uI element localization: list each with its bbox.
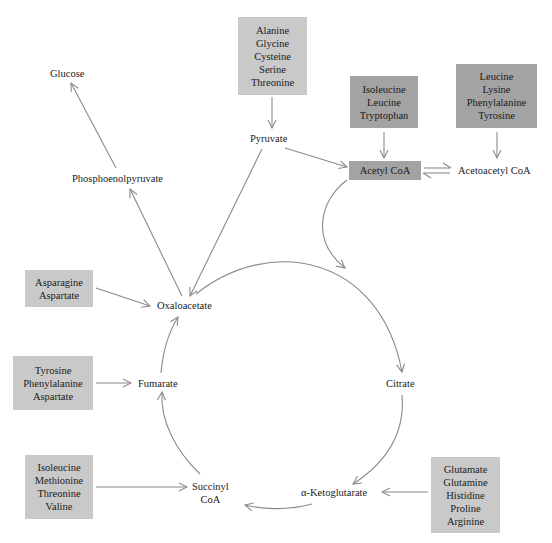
arrow-citrate-to-akg	[353, 395, 402, 484]
amino-acid-box-succinylcoa: Isoleucine Methionine Threonine Valine	[25, 455, 93, 519]
amino-acid: Cysteine	[254, 50, 291, 63]
metabolite-label: Succinyl	[192, 480, 229, 493]
metabolite-alpha-ketoglutarate: α-Ketoglutarate	[301, 486, 367, 499]
metabolite-label: CoA	[192, 493, 229, 506]
amino-acid: Aspartate	[39, 289, 79, 302]
arrow-pyruvate-to-oxaloacetate	[190, 149, 262, 296]
amino-acid-box-acetylcoa: Isoleucine Leucine Tryptophan	[350, 76, 418, 128]
amino-acid: Serine	[259, 63, 286, 76]
amino-acid: Histidine	[446, 489, 485, 502]
metabolite-acetoacetyl-coa: Acetoacetyl CoA	[458, 164, 531, 177]
amino-acid: Tyrosine	[35, 364, 72, 377]
arrow-pep-to-glucose	[71, 83, 116, 168]
amino-acid: Phenylalanine	[23, 377, 82, 390]
amino-acid: Glutamine	[443, 476, 487, 489]
metabolite-label: Acetyl CoA	[360, 164, 410, 177]
amino-acid: Arginine	[447, 515, 484, 528]
amino-acid: Isoleucine	[362, 83, 405, 96]
arrow-acetylcoa-into-cycle	[323, 180, 347, 268]
amino-acid-box-fumarate: Tyrosine Phenylalanine Aspartate	[13, 356, 93, 410]
amino-acid: Threonine	[37, 487, 80, 500]
arrow-oaa-to-citrate	[196, 262, 402, 372]
amino-acid-box-acetoacetylcoa: Leucine Lysine Phenylalanine Tyrosine	[456, 64, 537, 128]
amino-acid: Proline	[450, 502, 480, 515]
amino-acid: Lysine	[483, 83, 511, 96]
amino-acid-box-oxaloacetate: Asparagine Aspartate	[25, 270, 93, 307]
amino-acid: Asparagine	[35, 276, 83, 289]
amino-acid: Threonine	[251, 76, 294, 89]
amino-acid: Alanine	[256, 24, 289, 37]
amino-acid: Phenylalanine	[467, 96, 526, 109]
acetyl-coa-box: Acetyl CoA	[349, 161, 421, 180]
arrow-succinylcoa-to-fumarate	[162, 392, 200, 474]
metabolite-fumarate: Fumarate	[138, 377, 178, 390]
amino-acid: Glycine	[256, 37, 289, 50]
metabolite-succinyl-coa: Succinyl CoA	[192, 480, 229, 506]
arrow-fumarate-to-oaa	[161, 317, 178, 373]
arrow-pyruvate-to-acetylcoa	[285, 148, 347, 167]
amino-acid: Tyrosine	[478, 109, 515, 122]
metabolite-pyruvate: Pyruvate	[250, 132, 287, 145]
arrow-aa-to-oaa	[96, 288, 150, 306]
amino-acid: Valine	[46, 500, 73, 513]
metabolite-citrate: Citrate	[386, 377, 415, 390]
amino-acid: Tryptophan	[360, 109, 409, 122]
metabolite-phosphoenolpyruvate: Phosphoenolpyruvate	[72, 172, 163, 185]
metabolite-oxaloacetate: Oxaloacetate	[157, 299, 212, 312]
amino-acid-box-pyruvate: Alanine Glycine Cysteine Serine Threonin…	[238, 17, 307, 95]
metabolite-glucose: Glucose	[50, 67, 84, 80]
arrow-oaa-to-pep	[130, 189, 182, 296]
amino-acid-box-alpha-ketoglutarate: Glutamate Glutamine Histidine Proline Ar…	[431, 457, 500, 533]
amino-acid: Leucine	[480, 70, 514, 83]
amino-acid: Leucine	[367, 96, 401, 109]
amino-acid: Aspartate	[33, 390, 73, 403]
amino-acid: Methionine	[35, 474, 83, 487]
amino-acid: Glutamate	[444, 463, 488, 476]
arrow-akg-to-succinylcoa	[245, 504, 312, 509]
amino-acid: Isoleucine	[37, 461, 80, 474]
